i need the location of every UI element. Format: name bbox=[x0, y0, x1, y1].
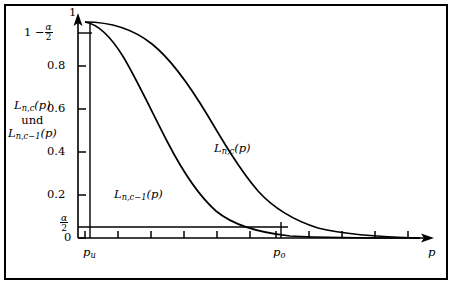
pu-sub: u bbox=[90, 250, 95, 260]
y-axis-title-line3: Ln,c−1(p) bbox=[8, 127, 57, 142]
curve2-arg: (p) bbox=[146, 187, 162, 201]
y-axis-title: Ln,c(p) und Ln,c−1(p) bbox=[8, 99, 57, 142]
y-axis-title-line1: Ln,c(p) bbox=[8, 99, 57, 114]
curve2-sub: n,c−1 bbox=[122, 192, 147, 202]
curve-L-n-c-minus-1 bbox=[85, 22, 420, 238]
y-title-sub1: n,c bbox=[22, 103, 35, 113]
figure-container: 0.8 0.6 0.4 0.2 0 1 1 −α2 α2 Ln,c(p) und… bbox=[0, 0, 452, 284]
y-ticks bbox=[78, 66, 86, 238]
y-tick-label-0-2: 0.2 bbox=[47, 189, 65, 201]
one-minus-lead: 1 − bbox=[24, 25, 45, 39]
x-tick-label-po: po bbox=[273, 247, 285, 259]
po-sub: o bbox=[280, 250, 285, 260]
alpha-over-two-fraction-low: α2 bbox=[60, 213, 68, 233]
curve-label-L-n-c: Ln,c(p) bbox=[214, 143, 251, 155]
y-title-arg1: (p) bbox=[34, 98, 50, 112]
alpha-over-two-fraction: α2 bbox=[45, 23, 53, 42]
curve1-L: L bbox=[214, 141, 222, 155]
curve-L-n-c bbox=[85, 22, 420, 238]
curve1-arg: (p) bbox=[234, 141, 250, 155]
y-label-one-minus-alpha-half: 1 −α2 bbox=[24, 23, 53, 42]
alpha-numerator: α bbox=[45, 23, 53, 32]
x-axis-label-p: p bbox=[428, 247, 435, 259]
alpha-numerator-low: α bbox=[60, 213, 68, 222]
curve-label-L-n-c-minus-1: Ln,c−1(p) bbox=[114, 189, 163, 201]
y-tick-label-0-8: 0.8 bbox=[47, 60, 65, 72]
y-label-alpha-half: α2 bbox=[60, 213, 68, 234]
y-top-label-one: 1 bbox=[69, 7, 76, 19]
alpha-denominator: 2 bbox=[45, 32, 53, 42]
y-title-arg3: (p) bbox=[40, 126, 56, 140]
x-tick-label-pu: pu bbox=[83, 247, 96, 259]
curve2-L: L bbox=[114, 187, 122, 201]
y-title-L3: L bbox=[8, 126, 16, 140]
curve1-sub: n,c bbox=[222, 146, 235, 156]
alpha-denominator-low: 2 bbox=[60, 222, 68, 232]
y-title-L1: L bbox=[14, 98, 22, 112]
y-axis-title-line2: und bbox=[8, 114, 57, 128]
y-title-sub3: n,c−1 bbox=[16, 131, 41, 141]
y-tick-label-0-4: 0.4 bbox=[47, 146, 65, 158]
